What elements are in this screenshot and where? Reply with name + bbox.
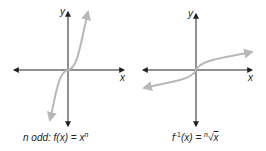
- radicand: x: [213, 132, 218, 143]
- y-axis-label: y: [188, 8, 193, 19]
- caption-odd-power: n odd: f(x) = xn: [23, 131, 88, 143]
- caption-inverse-root: f-1(x) = n√x: [172, 131, 218, 143]
- caption-rest: (x) =: [181, 132, 204, 143]
- caption-prefix: n odd:: [23, 132, 54, 143]
- caption-func: f(x) = x: [54, 132, 85, 143]
- caption-exponent: n: [84, 131, 88, 138]
- curve-odd-power: [50, 12, 88, 120]
- graph-inverse-root: [143, 14, 252, 126]
- graph-odd-power: [14, 12, 124, 126]
- x-axis-label: x: [248, 72, 253, 83]
- graphs-canvas: [0, 0, 266, 151]
- x-axis-label: x: [120, 72, 125, 83]
- y-axis-label: y: [60, 6, 65, 17]
